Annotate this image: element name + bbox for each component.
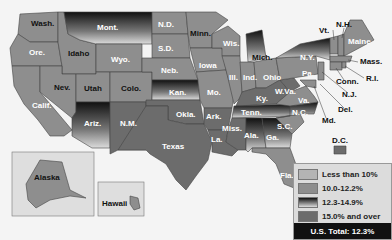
label-neb: Neb. <box>161 66 178 75</box>
label-hawaii: Hawaii <box>102 199 127 208</box>
label-idaho: Idaho <box>68 49 89 58</box>
label-wis: Wis. <box>223 39 239 48</box>
label-texas: Texas <box>162 142 185 151</box>
label-nev: Nev. <box>54 83 70 92</box>
state-mass <box>330 56 352 62</box>
label-ri: R.I. <box>366 74 378 83</box>
label-mich: Mich. <box>252 53 272 62</box>
label-sd: S.D. <box>158 44 174 53</box>
state-dc <box>334 146 346 154</box>
state-md <box>300 80 316 88</box>
legend-item: 12.3-14.9% <box>298 196 363 208</box>
label-mont: Mont. <box>97 23 118 32</box>
label-okla: Okla. <box>176 110 196 119</box>
us-total: U.S. Total: 12.3% <box>294 223 391 239</box>
state-conn <box>330 62 342 70</box>
legend-swatch <box>298 183 318 194</box>
label-ohio: Ohio <box>263 73 281 82</box>
label-iowa: Iowa <box>199 61 217 70</box>
legend-swatch <box>298 211 318 222</box>
label-ny: N.Y. <box>300 53 315 62</box>
state-ri <box>342 62 346 68</box>
label-conn: Conn. <box>336 77 359 86</box>
legend-item: 10.0-12.2% <box>298 182 363 194</box>
label-miss: Miss. <box>222 124 242 133</box>
label-sc: S.C. <box>277 122 293 131</box>
legend-label: Less than 10% <box>322 170 378 179</box>
label-ga: Ga. <box>266 133 279 142</box>
label-wyo: Wyo. <box>111 55 130 64</box>
label-calif: Calif. <box>32 101 52 110</box>
label-colo: Colo. <box>121 84 141 93</box>
legend-item: 15.0% and over <box>298 210 380 222</box>
label-nd: N.D. <box>158 20 174 29</box>
label-maine: Maine <box>348 37 371 46</box>
label-wash: Wash. <box>31 19 54 28</box>
label-nm: N.M. <box>120 119 137 128</box>
label-ark: Ark. <box>206 112 222 121</box>
label-minn: Minn. <box>190 29 211 38</box>
legend-label: 15.0% and over <box>322 212 380 221</box>
label-md: Md. <box>322 116 336 125</box>
label-ore: Ore. <box>29 48 45 57</box>
label-fla: Fla. <box>280 171 294 180</box>
label-wva: W.Va. <box>275 87 296 96</box>
state-fla <box>252 148 298 188</box>
label-ala: Ala. <box>244 131 259 140</box>
label-utah: Utah <box>84 84 102 93</box>
state-nh <box>338 34 344 56</box>
legend: Less than 10% 10.0-12.2% 12.3-14.9% 15.0… <box>293 163 392 240</box>
label-dc: D.C. <box>332 136 348 145</box>
label-la: La. <box>211 135 223 144</box>
label-del: Del. <box>338 105 353 114</box>
label-ariz: Ariz. <box>84 119 101 128</box>
legend-swatch <box>298 197 318 208</box>
label-vt: Vt. <box>319 26 329 35</box>
legend-label: 12.3-14.9% <box>322 198 363 207</box>
label-pa: Pa. <box>302 69 314 78</box>
label-ind: Ind. <box>243 73 257 82</box>
state-nj <box>318 62 324 80</box>
label-va: Va. <box>298 96 310 105</box>
label-nh: N.H. <box>336 20 352 29</box>
label-mass: Mass. <box>360 57 382 66</box>
label-nc: N.C. <box>292 108 308 117</box>
label-nj: N.J. <box>342 90 357 99</box>
label-ky: Ky. <box>256 94 268 103</box>
label-mo: Mo. <box>207 88 221 97</box>
legend-label: 10.0-12.2% <box>322 184 363 193</box>
label-alaska: Alaska <box>34 173 60 182</box>
legend-swatch <box>298 169 318 180</box>
label-kan: Kan. <box>169 88 186 97</box>
legend-item: Less than 10% <box>298 168 378 180</box>
label-ill: Ill. <box>229 73 238 82</box>
label-tenn: Tenn. <box>241 108 262 117</box>
